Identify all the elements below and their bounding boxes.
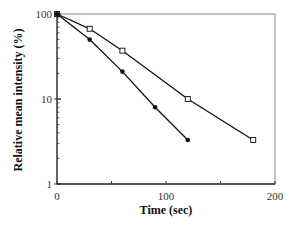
filled-circle-marker [120, 69, 125, 74]
axis-ticks: 1101000100200 [36, 8, 284, 202]
open-square-marker [251, 137, 256, 142]
open-square-marker [185, 97, 190, 102]
data-series [55, 12, 256, 143]
x-tick-label: 0 [54, 190, 60, 202]
y-tick-label: 10 [41, 93, 53, 105]
filled-circle-marker [55, 12, 60, 17]
x-tick-label: 100 [158, 190, 175, 202]
y-tick-label: 100 [36, 8, 53, 20]
filled-circle-marker [87, 37, 92, 42]
open-square-marker [120, 48, 125, 53]
y-axis-title: Relative mean intensity (%) [11, 29, 25, 172]
open-square-marker [87, 26, 92, 31]
filled-circle-marker [186, 138, 191, 143]
open-squares-line [57, 14, 253, 140]
decay-chart: 1101000100200 Time (sec) Relative mean i… [0, 0, 293, 225]
filled-circle-marker [153, 105, 158, 110]
x-axis-title: Time (sec) [140, 203, 193, 217]
y-tick-label: 1 [47, 178, 53, 190]
filled-circles-line [57, 14, 188, 140]
x-tick-label: 200 [267, 190, 284, 202]
